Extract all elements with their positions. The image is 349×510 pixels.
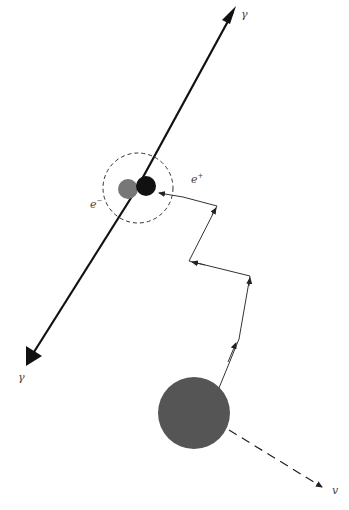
arrowhead-bottom-icon xyxy=(26,346,42,366)
electron-label: e− xyxy=(90,197,102,211)
neutrino-label: v xyxy=(332,484,338,497)
gamma-label-top: γ xyxy=(241,8,248,21)
positron-path xyxy=(159,193,250,410)
positron-label: e+ xyxy=(191,172,203,186)
positron-sign: + xyxy=(198,172,204,180)
arrowhead-top-icon xyxy=(222,6,236,24)
positron-particle xyxy=(136,176,156,196)
electron-particle xyxy=(118,179,138,199)
neutrino-path xyxy=(229,430,322,487)
gamma-label-bottom: γ xyxy=(18,371,25,384)
electron-sign: − xyxy=(97,197,103,205)
nucleus xyxy=(158,377,230,449)
diagram-canvas xyxy=(0,0,349,510)
